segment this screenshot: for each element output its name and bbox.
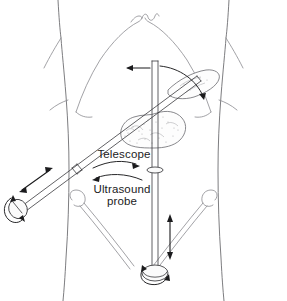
probe-handle[interactable]	[142, 265, 168, 281]
medical-illustration: Telescope Ultrasound probe	[0, 0, 287, 301]
ultrasound-label-line1: Ultrasound	[93, 183, 150, 195]
ultrasound-label-line2: probe	[107, 195, 137, 207]
telescope-label: Telescope	[97, 148, 150, 160]
probe-collar	[147, 167, 163, 173]
figure-container: Telescope Ultrasound probe	[0, 0, 287, 301]
